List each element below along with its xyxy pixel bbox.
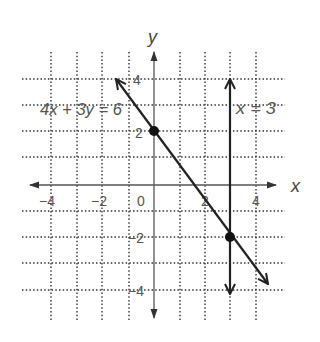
y-axis-label: y	[146, 27, 158, 47]
y-tick-label: 4	[133, 72, 141, 88]
equation-label-x-eq-3: x = 3	[235, 100, 276, 117]
x-tick-label: 4	[252, 193, 260, 209]
x-axis-label: x	[290, 176, 301, 196]
point-y-intercept	[149, 126, 159, 136]
y-tick-label: −4	[128, 283, 144, 299]
x-tick-label: −4	[39, 193, 55, 209]
x-tick-label: 0	[137, 193, 145, 209]
equation-label-4x-3y: 4x + 3y = 6	[40, 101, 122, 118]
y-tick-label: 2	[135, 125, 143, 141]
axes	[30, 52, 276, 318]
point-intersection	[225, 232, 235, 242]
coordinate-plane: x y −4 −2 0 2 4 4 2 −2 −4 4x + 3y = 6 x …	[0, 0, 320, 342]
x-tick-label: −2	[91, 193, 107, 209]
y-tick-label: −2	[128, 230, 144, 246]
